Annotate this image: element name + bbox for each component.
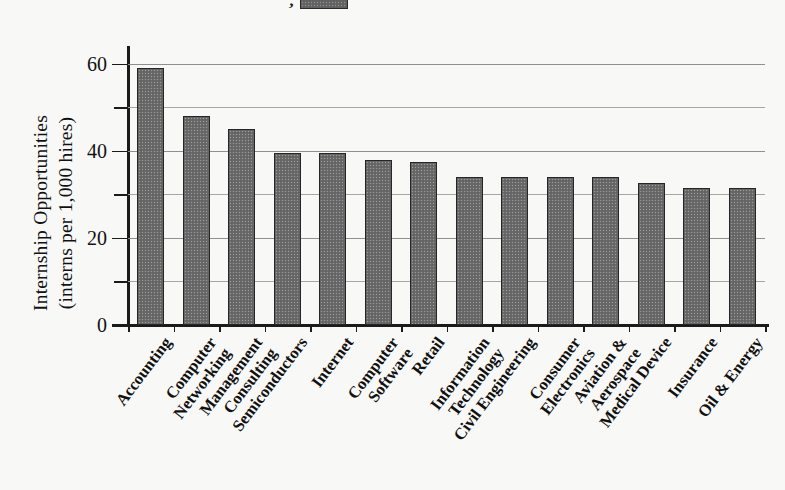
x-tick (720, 325, 722, 332)
x-tick (674, 325, 676, 332)
x-tick (265, 325, 267, 332)
y-axis-label-0: 0 (97, 314, 107, 337)
x-tick (492, 325, 494, 332)
y-tick-60 (112, 64, 128, 66)
y-tick-0 (112, 325, 128, 327)
x-tick (583, 325, 585, 332)
x-tick (128, 325, 130, 332)
bar (137, 68, 164, 325)
y-axis-label-60: 60 (87, 52, 107, 75)
y-minor-tick-10 (114, 281, 128, 283)
y-axis-title: Internship Opportunities (interns per 1,… (28, 68, 78, 358)
x-tick (310, 325, 312, 332)
legend-comma-mark: , (289, 0, 295, 6)
bar (365, 160, 392, 325)
x-tick (538, 325, 540, 332)
y-tick-20 (112, 238, 128, 240)
bar (274, 153, 301, 325)
x-tick (765, 325, 767, 332)
gridline-30 (128, 194, 765, 195)
x-tick (356, 325, 358, 332)
chart-figure: , Internship Opportunities (interns per … (0, 0, 785, 490)
bar (501, 177, 528, 325)
bar (228, 129, 255, 325)
y-axis-label-40: 40 (87, 139, 107, 162)
x-tick (629, 325, 631, 332)
gridline-20 (128, 238, 765, 239)
y-axis-title-line-1: Internship Opportunities (28, 68, 53, 358)
bar (456, 177, 483, 325)
gridline-40 (128, 151, 765, 152)
gridline-10 (128, 281, 765, 282)
bar (683, 188, 710, 325)
x-tick (174, 325, 176, 332)
bar (729, 188, 756, 325)
y-minor-tick-30 (114, 194, 128, 196)
y-minor-tick-50 (114, 107, 128, 109)
bar (319, 153, 346, 325)
legend-color-swatch (300, 0, 348, 9)
bar (592, 177, 619, 325)
bar (638, 183, 665, 325)
gridline-60 (128, 64, 765, 65)
plot-area: 0204060 (128, 55, 765, 325)
x-tick (401, 325, 403, 332)
bar (547, 177, 574, 325)
y-tick-40 (112, 151, 128, 153)
x-tick (219, 325, 221, 332)
y-axis-title-line-2: (interns per 1,000 hires) (53, 68, 78, 358)
bar (183, 116, 210, 325)
legend: , (290, 0, 348, 10)
gridline-50 (128, 107, 765, 108)
bar (410, 162, 437, 325)
y-axis-label-20: 20 (87, 226, 107, 249)
x-tick (447, 325, 449, 332)
